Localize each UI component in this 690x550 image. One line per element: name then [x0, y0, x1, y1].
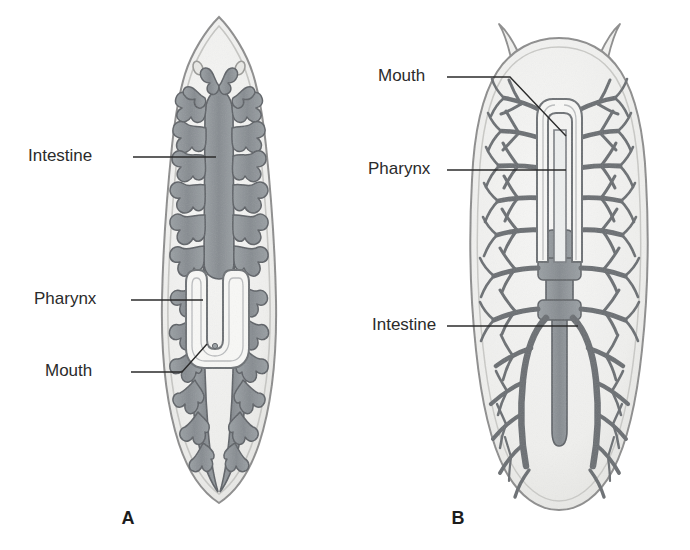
mouth-opening-b — [554, 130, 566, 262]
label-pharynx-a: Pharynx — [34, 289, 97, 308]
intestine-anterior-trunk-a — [204, 88, 234, 279]
label-mouth-a: Mouth — [45, 361, 92, 380]
label-intestine-b: Intestine — [372, 315, 436, 334]
flatworm-diagram-canvas: Intestine Pharynx Mouth A Mouth Pharynx … — [0, 0, 690, 550]
label-mouth-b: Mouth — [378, 66, 425, 85]
mouth-opening-a — [212, 343, 217, 348]
label-pharynx-b: Pharynx — [368, 159, 431, 178]
panel-letter-a: A — [122, 508, 135, 528]
panel-b-organism — [470, 24, 647, 510]
label-intestine-a: Intestine — [28, 146, 92, 165]
panel-letter-b: B — [452, 508, 465, 528]
figure-root: Intestine Pharynx Mouth A Mouth Pharynx … — [0, 0, 690, 550]
